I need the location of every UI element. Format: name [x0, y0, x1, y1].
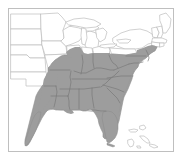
map-canvas: [0, 0, 182, 158]
state-minnesota: [41, 13, 66, 41]
lake-ontario: [117, 39, 131, 43]
state-rhode-island: [160, 43, 164, 47]
range-map-figure: [0, 0, 182, 158]
state-north-dakota: [11, 14, 41, 29]
state-south-dakota: [11, 29, 42, 45]
